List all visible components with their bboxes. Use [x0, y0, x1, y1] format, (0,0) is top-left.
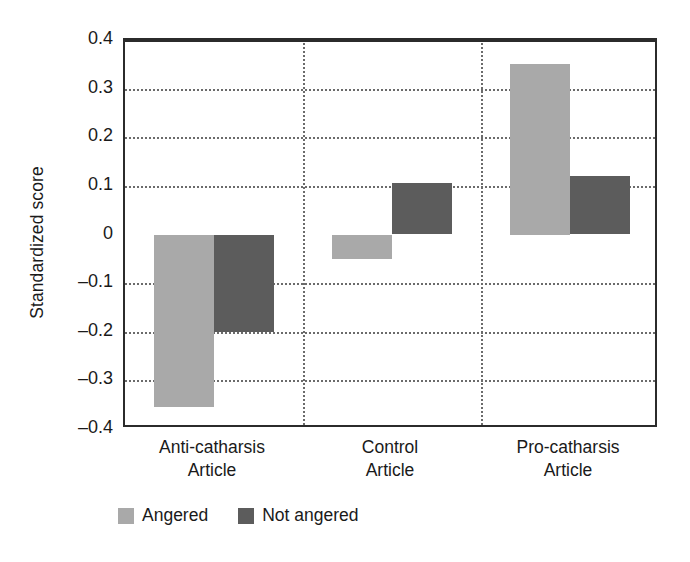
legend-label: Not angered	[262, 505, 358, 526]
legend-swatch-icon	[238, 508, 254, 524]
group-separator-gridline	[303, 40, 305, 425]
bar	[154, 235, 214, 408]
bar-chart-figure: Standardized score 0.40.30.20.10–0.1–0.2…	[0, 0, 690, 562]
y-tick-label: –0.4	[45, 418, 113, 436]
bar	[392, 183, 452, 234]
horizontal-gridline	[125, 137, 655, 139]
y-tick-label: –0.1	[45, 272, 113, 290]
x-category-label-line2: Article	[123, 459, 301, 482]
y-tick-label: 0.2	[45, 126, 113, 144]
legend-swatch-icon	[118, 508, 134, 524]
plot-area	[123, 38, 657, 427]
x-category-label-line2: Article	[301, 459, 479, 482]
y-tick-label: 0.3	[45, 78, 113, 96]
y-tick-label: 0.4	[45, 29, 113, 47]
bar	[332, 235, 392, 259]
plot-inner	[125, 40, 655, 425]
group-separator-gridline	[481, 40, 483, 425]
legend-label: Angered	[142, 505, 208, 526]
bar	[570, 176, 630, 234]
x-category-label-line1: Control	[301, 436, 479, 459]
y-tick-label: 0.1	[45, 175, 113, 193]
y-tick-label: –0.3	[45, 369, 113, 387]
x-category-label: Pro-catharsisArticle	[479, 436, 657, 482]
legend-entry: Not angered	[238, 505, 358, 526]
bar	[510, 64, 570, 234]
chart-legend: AngeredNot angered	[118, 505, 359, 526]
x-category-label-line1: Anti-catharsis	[123, 436, 301, 459]
y-tick-label: 0	[45, 224, 113, 242]
x-category-label-line1: Pro-catharsis	[479, 436, 657, 459]
horizontal-gridline	[125, 89, 655, 91]
y-axis-title: Standardized score	[27, 133, 48, 353]
y-tick-label: –0.2	[45, 321, 113, 339]
bar	[214, 235, 274, 332]
x-category-label: Anti-catharsisArticle	[123, 436, 301, 482]
legend-entry: Angered	[118, 505, 208, 526]
x-category-label: ControlArticle	[301, 436, 479, 482]
zero-baseline	[125, 40, 655, 42]
x-category-label-line2: Article	[479, 459, 657, 482]
